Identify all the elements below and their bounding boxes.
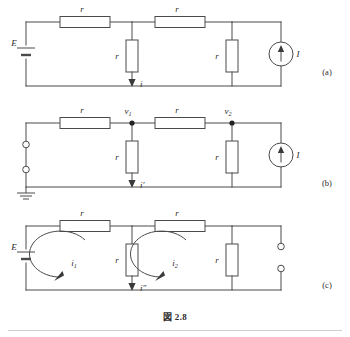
resistor-a-middle [126,40,138,72]
label-a-source-E: E [10,38,17,48]
label-b-resistor-right: r [215,152,219,162]
resistor-a-top-left [60,17,110,28]
label-b-resistor-top-right: r [175,105,179,115]
terminal-b-lower[interactable] [23,166,30,173]
node-dot-v2 [229,120,234,125]
resistor-a-right [226,40,238,72]
mesh-loop-2-arc [130,231,186,277]
figure-caption: 図 2.8 [0,310,350,323]
label-b-resistor-middle: r [115,152,119,162]
label-c-resistor-middle: r [115,255,119,265]
label-c-source-E: E [10,242,17,252]
node-dot-v1 [129,120,134,125]
label-c-mesh-2: i2 [172,258,178,269]
terminal-c-upper[interactable] [278,243,285,250]
panel-a-circuit: r r r r E I i (a) [10,4,332,89]
resistor-c-top-left [60,221,110,232]
page-divider-rule [8,330,342,331]
resistor-b-top-right [155,118,205,129]
circuit-diagram-svg: r r r r E I i (a) [0,0,350,337]
panel-b-circuit: r r r r I i′ v1 v2 (b) [17,105,332,199]
label-b-node-v1: v1 [124,106,131,117]
label-b-resistor-top-left: r [80,105,84,115]
label-b-node-v2: v2 [224,106,231,117]
panel-label-c: (c) [322,280,332,290]
label-b-current-source-I: I [296,150,301,160]
terminal-b-upper[interactable] [23,141,30,148]
label-c-resistor-top-right: r [175,208,179,218]
label-a-branch-current: i [140,79,143,89]
label-c-resistor-top-left: r [80,208,84,218]
mesh-loop-1-arrowhead [54,271,64,281]
figure-2-8: r r r r E I i (a) [0,0,350,337]
resistor-c-top-right [155,221,205,232]
resistor-c-right [226,244,238,276]
panel-label-b: (b) [322,178,332,188]
mesh-loop-1-arc [29,231,85,277]
resistor-a-top-right [155,17,205,28]
label-a-resistor-top-right: r [175,4,179,14]
terminal-c-lower[interactable] [278,265,285,272]
resistor-b-middle [126,141,138,173]
label-a-resistor-right: r [215,51,219,61]
label-a-resistor-top-left: r [80,4,84,14]
resistor-b-right [226,141,238,173]
label-b-branch-current: i′ [140,180,146,190]
label-a-current-source-I: I [296,49,301,59]
label-a-resistor-middle: r [115,51,119,61]
label-c-branch-current: i″ [140,283,147,293]
panel-c-circuit: r r r r E i″ i1 i2 (c) [10,208,332,293]
mesh-loop-2-arrowhead [155,271,165,281]
panel-label-a: (a) [322,67,332,77]
resistor-b-top-left [60,118,110,129]
label-c-resistor-right: r [215,255,219,265]
label-c-mesh-1: i1 [71,258,77,269]
